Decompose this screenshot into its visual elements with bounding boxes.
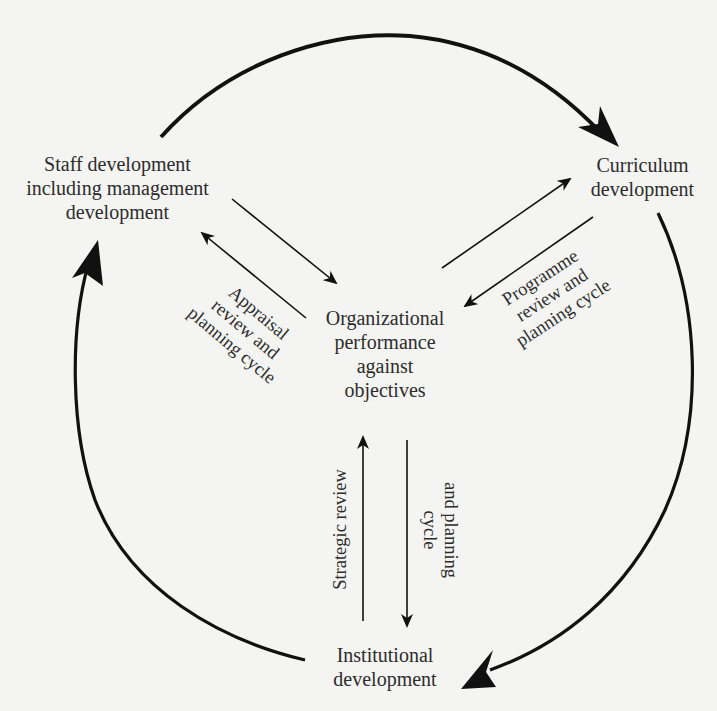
- arrow-center-to-curriculum: [442, 179, 570, 268]
- node-center-line-3: against: [310, 354, 460, 378]
- label-and-planning-cycle: and planning cycle: [419, 470, 461, 590]
- arrowhead-staff-icon: [72, 240, 103, 286]
- node-curriculum-development: Curriculum development: [580, 153, 705, 201]
- label-strategic-review: Strategic review: [330, 460, 351, 600]
- node-institutional-line-2: development: [320, 667, 450, 691]
- node-staff-line-3: development: [20, 200, 215, 224]
- node-curriculum-line-2: development: [580, 177, 705, 201]
- node-center-line-2: performance: [310, 330, 460, 354]
- cycle-diagram: Staff development including management d…: [0, 0, 717, 711]
- node-staff-line-2: including management: [20, 176, 215, 200]
- arc-staff-to-curriculum: [161, 35, 600, 137]
- label-and-planning-line-2: cycle: [419, 470, 440, 590]
- node-center-line-4: objectives: [310, 378, 460, 402]
- node-institutional-line-1: Institutional: [320, 643, 450, 667]
- label-strategic-line-1: Strategic review: [330, 460, 351, 600]
- node-institutional-development: Institutional development: [320, 643, 450, 691]
- node-curriculum-line-1: Curriculum: [580, 153, 705, 177]
- node-center-line-1: Organizational: [310, 306, 460, 330]
- node-staff-development: Staff development including management d…: [20, 152, 215, 224]
- arrowhead-curriculum-icon: [578, 106, 619, 147]
- node-organizational-performance: Organizational performance against objec…: [310, 306, 460, 402]
- node-staff-line-1: Staff development: [20, 152, 215, 176]
- label-and-planning-line-1: and planning: [440, 470, 461, 590]
